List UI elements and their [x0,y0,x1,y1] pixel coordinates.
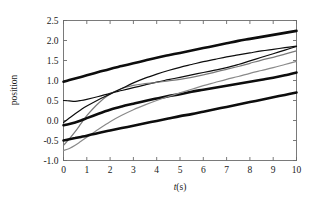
x-tick-label: 9 [271,165,276,175]
x-tick-label: 2 [108,165,113,175]
y-tick-label: -1.0 [43,156,58,166]
position-vs-time-line-chart: 012345678910 -1.0-0.50.00.51.01.52.02.5 … [0,0,315,202]
y-tick-label: 1.0 [47,76,59,86]
y-tick-label: 0.5 [47,96,59,106]
x-tick-label: 0 [61,165,66,175]
y-axis-title: position [9,74,19,105]
chart-figure: 012345678910 -1.0-0.50.00.51.01.52.02.5 … [0,0,315,202]
y-axis-title-label: position [9,74,19,105]
x-tick-label: 6 [201,165,206,175]
y-tick-label: 0.0 [47,116,59,126]
x-tick-label: 8 [248,165,253,175]
x-axis-title-units: (s) [176,182,186,193]
x-tick-label: 4 [154,165,159,175]
x-tick-label: 10 [292,165,302,175]
y-tick-label: -0.5 [43,136,58,146]
x-axis-title: t(s) [174,182,187,193]
svg-text:t(s): t(s) [174,182,187,193]
x-tick-label: 5 [178,165,183,175]
x-tick-label: 7 [224,165,229,175]
x-tick-label: 3 [131,165,136,175]
x-tick-label: 1 [84,165,89,175]
y-tick-label: 2.0 [47,36,59,46]
y-tick-label: 2.5 [47,16,59,26]
y-tick-label: 1.5 [47,56,59,66]
